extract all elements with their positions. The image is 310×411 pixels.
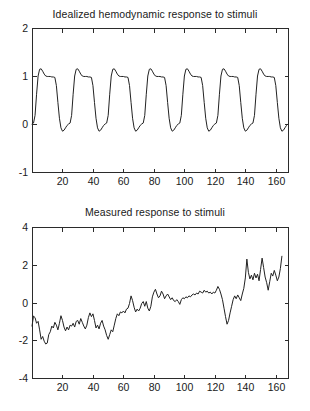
figure-page: Idealized hemodynamic response to stimul… (0, 0, 310, 411)
x-tick-label: 140 (237, 381, 255, 393)
y-tick-label: 0 (22, 118, 28, 130)
x-tick-label: 160 (268, 175, 286, 187)
y-tick-label: 1 (22, 70, 28, 82)
bottom-figure-panel: Measured response to stimuli -4-20242040… (0, 200, 310, 411)
y-tick-label: -4 (19, 372, 28, 384)
y-tick-label: 2 (22, 22, 28, 34)
x-tick-label: 160 (268, 381, 286, 393)
x-tick-label: 20 (57, 381, 69, 393)
x-tick-label: 40 (88, 381, 100, 393)
x-tick-label: 60 (118, 381, 130, 393)
data-series-line (32, 256, 282, 344)
x-tick-label: 100 (176, 381, 194, 393)
y-tick-label: -1 (19, 166, 28, 178)
data-series-line (32, 69, 288, 131)
x-tick-label: 80 (149, 381, 161, 393)
x-tick-label: 60 (118, 175, 130, 187)
x-tick-label: 80 (149, 175, 161, 187)
y-tick-label: 0 (22, 297, 28, 309)
bottom-chart-plot: -4-202420406080100120140160 (0, 200, 310, 411)
y-tick-label: 2 (22, 259, 28, 271)
x-tick-label: 140 (237, 175, 255, 187)
x-tick-label: 120 (207, 175, 225, 187)
top-chart-plot: -101220406080100120140160 (0, 0, 310, 203)
y-tick-label: -2 (19, 334, 28, 346)
y-tick-label: 4 (22, 221, 28, 233)
x-tick-label: 100 (176, 175, 194, 187)
top-figure-panel: Idealized hemodynamic response to stimul… (0, 0, 310, 203)
x-tick-label: 20 (57, 175, 69, 187)
x-tick-label: 120 (207, 381, 225, 393)
x-tick-label: 40 (88, 175, 100, 187)
